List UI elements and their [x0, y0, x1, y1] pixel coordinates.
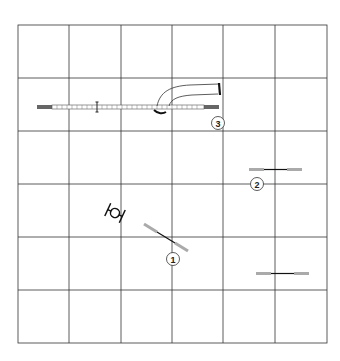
dogwalk-obstacle: [37, 102, 219, 112]
jump-obstacle: [256, 272, 309, 275]
svg-text:3: 3: [215, 119, 220, 129]
course-map: 3 2 1: [0, 0, 340, 361]
svg-text:2: 2: [254, 180, 259, 190]
number-2-marker: 2: [251, 178, 264, 191]
svg-text:1: 1: [170, 255, 175, 265]
grid: [18, 25, 327, 343]
number-1-marker: 1: [167, 253, 180, 266]
jump-2-obstacle: [249, 168, 302, 171]
tire-obstacle: [105, 203, 125, 222]
number-3-marker: 3: [212, 117, 225, 130]
jump-1-obstacle: [144, 224, 188, 251]
